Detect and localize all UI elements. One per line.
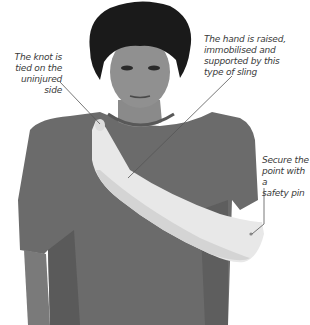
annotation-pin: Secure the point with a safety pin bbox=[262, 155, 310, 199]
arm-left bbox=[24, 250, 50, 325]
annotation-hand: The hand is raised, immobilised and supp… bbox=[204, 34, 310, 78]
sling-illustration: The knot is tied on the uninjured side T… bbox=[0, 0, 310, 325]
annotation-knot: The knot is tied on the uninjured side bbox=[8, 52, 62, 96]
